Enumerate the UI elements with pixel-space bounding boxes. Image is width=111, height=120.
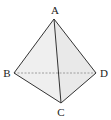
vertex-label-A: A bbox=[51, 4, 59, 16]
vertex-label-C: C bbox=[57, 106, 64, 118]
vertex-label-D: D bbox=[100, 67, 108, 79]
vertex-label-B: B bbox=[3, 67, 10, 79]
tetrahedron-diagram: A B C D bbox=[0, 0, 111, 120]
face-ABC bbox=[14, 19, 61, 103]
